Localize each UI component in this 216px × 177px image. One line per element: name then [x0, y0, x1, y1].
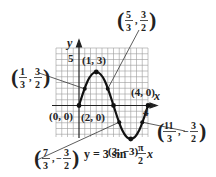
point-3-neg3: [128, 137, 133, 142]
svg-text:(: (: [11, 64, 18, 89]
svg-text:): ): [149, 7, 156, 32]
svg-text:5: 5: [126, 9, 131, 20]
fraction-label-11thirds: ( 11 3 , − 3 2 ): [157, 118, 206, 144]
point-7thirds: [117, 120, 121, 124]
point-0-0: [77, 103, 82, 108]
point-1third: [83, 87, 87, 91]
fraction-label-5thirds: ( 5 3 , 3 2 ): [117, 7, 156, 33]
label-2-0: (2, 0): [81, 111, 105, 124]
svg-text:−: −: [56, 153, 62, 164]
svg-text:,: ,: [29, 72, 32, 83]
svg-text:,: ,: [135, 15, 138, 26]
svg-text:2: 2: [35, 79, 40, 90]
svg-text:): ): [199, 118, 206, 143]
svg-text:3: 3: [191, 120, 196, 131]
svg-text:7: 7: [43, 147, 48, 158]
svg-text:3: 3: [35, 66, 40, 77]
y-axis-arrow-icon: [77, 40, 82, 47]
label-4-0: (4, 0): [131, 86, 155, 99]
svg-text:,: ,: [52, 153, 55, 164]
svg-text:2: 2: [138, 155, 143, 166]
svg-text:3: 3: [20, 79, 25, 90]
svg-text:y = 3 sin: y = 3 sin: [84, 147, 127, 161]
svg-text:2: 2: [141, 22, 146, 33]
svg-text:): ): [43, 64, 50, 89]
sine-graph: y x 5 4 (0, 0) (1, 3) (2, 0) (3, −3) (4,…: [0, 0, 216, 177]
svg-text:3: 3: [43, 160, 48, 171]
point-2-0: [111, 103, 116, 108]
point-1-3: [94, 70, 99, 75]
label-1-3: (1, 3): [82, 54, 106, 67]
label-0-0: (0, 0): [49, 110, 73, 123]
point-11thirds: [140, 120, 144, 124]
svg-text:11: 11: [164, 120, 173, 131]
fraction-label-1third: ( 1 3 , 3 2 ): [11, 64, 50, 90]
svg-text:3: 3: [64, 147, 69, 158]
y-axis-label: y: [65, 36, 73, 50]
svg-text:x: x: [146, 147, 153, 161]
svg-text:(: (: [117, 7, 124, 32]
point-5thirds: [106, 87, 110, 91]
svg-text:1: 1: [20, 66, 25, 77]
y-tick-label: 5: [68, 52, 74, 64]
svg-text:): ): [72, 145, 79, 170]
svg-text:3: 3: [167, 133, 172, 144]
svg-text:−: −: [183, 126, 189, 137]
x-axis-arrow-icon: [150, 103, 157, 108]
svg-text:2: 2: [191, 133, 196, 144]
svg-text:,: ,: [178, 126, 181, 137]
svg-text:(: (: [34, 145, 41, 170]
x-tick-label: 4: [143, 106, 149, 118]
svg-text:π: π: [138, 142, 144, 153]
svg-text:2: 2: [64, 160, 69, 171]
fraction-label-7thirds: ( 7 3 , − 3 2 ): [34, 145, 79, 171]
svg-text:3: 3: [141, 9, 146, 20]
svg-text:3: 3: [126, 22, 131, 33]
